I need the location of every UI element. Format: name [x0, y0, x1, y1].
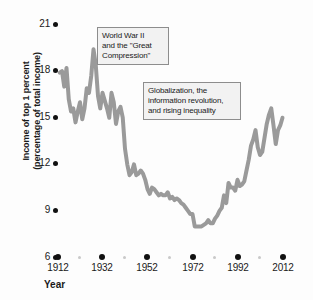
series-line-top-1-percent: [60, 49, 283, 226]
annotation-world-war-ii: World War II and the "Great Compression": [97, 27, 169, 65]
annotation-ww2-line2: and the "Great: [102, 41, 152, 50]
chart-figure: Income of top 1 percent (percentage of t…: [0, 0, 313, 300]
annotation-glob-line2: information revolution,: [148, 96, 223, 105]
annotation-globalization: Globalization, the information revolutio…: [143, 82, 241, 120]
annotation-ww2-line1: World War II: [102, 31, 144, 40]
annotation-glob-line3: and rising inequality: [148, 106, 216, 115]
annotation-ww2-line3: Compression": [102, 51, 150, 60]
annotation-glob-line1: Globalization, the: [148, 86, 207, 95]
